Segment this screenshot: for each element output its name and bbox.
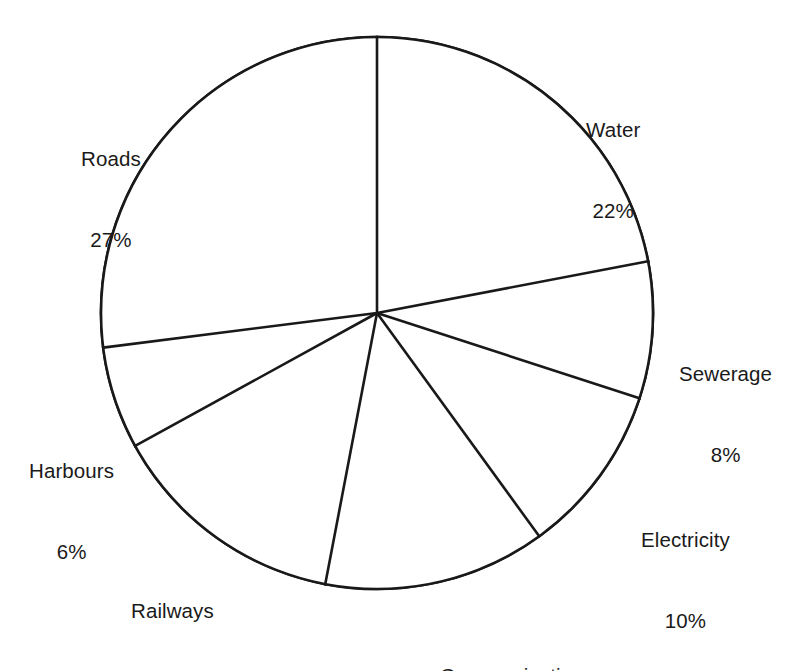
pie-label-harbours-name: Harbours [29,457,114,484]
pie-label-communication: Communication, gas and air 13% [440,608,590,671]
pie-label-water-name: Water [586,116,640,143]
pie-label-sewerage-name: Sewerage [679,360,772,387]
pie-label-electricity: Electricity 10% [641,472,730,671]
pie-label-roads-name: Roads [81,145,141,172]
pie-label-water-value: 22% [586,197,640,224]
pie-label-electricity-value: 10% [641,607,730,634]
pie-label-harbours-value: 6% [29,538,114,565]
pie-label-water: Water 22% [586,62,640,278]
pie-label-roads-value: 27% [81,226,141,253]
pie-label-communication-line1: Communication, [440,662,590,671]
pie-label-sewerage-value: 8% [679,441,772,468]
pie-label-roads: Roads 27% [81,91,141,307]
pie-label-railways: Railways 14% [131,543,214,671]
pie-label-railways-name: Railways [131,597,214,624]
pie-label-electricity-name: Electricity [641,526,730,553]
pie-label-harbours: Harbours 6% [29,403,114,619]
pie-chart: Water 22% Sewerage 8% Electricity 10% Co… [0,0,801,671]
